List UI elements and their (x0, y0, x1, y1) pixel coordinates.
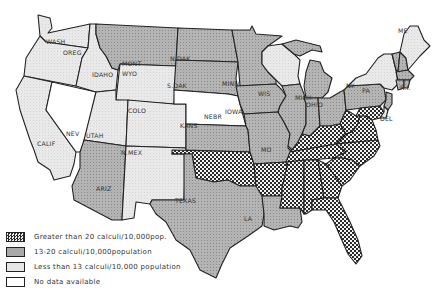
medium-gray-swatch-icon (6, 247, 25, 257)
label-ariz: ARIZ (96, 185, 111, 192)
label-mont: MONT (122, 60, 141, 67)
label-oreg: OREG (63, 49, 82, 56)
label-la: LA (244, 215, 253, 222)
checkered-swatch-icon (6, 232, 25, 242)
label-idaho: IDAHO (92, 71, 113, 78)
label-ri: R.I. (400, 84, 411, 91)
legend-row-13-to-20: 13-20 calculi/10,000population (6, 244, 246, 259)
label-wyo: WYO (122, 70, 137, 77)
label-ndak: N.DAK (170, 55, 191, 62)
legend-row-less-than-13: Less than 13 calculi/10,000 population (6, 259, 246, 274)
label-mich: MICH (295, 94, 312, 101)
label-nev: NEV (66, 130, 80, 137)
state-ny (348, 54, 398, 90)
legend-label: No data available (34, 278, 100, 286)
label-minn: MINN (222, 80, 239, 87)
label-mo: MO (261, 146, 272, 153)
label-sdak: S.DAK (167, 82, 188, 89)
label-nmex: N.MEX (121, 149, 143, 156)
label-ohio: OHIO (306, 101, 323, 108)
label-del: DEL (380, 115, 393, 122)
label-wis: WIS (258, 90, 270, 97)
label-colo: COLO (128, 107, 146, 114)
label-ny: NY (346, 82, 355, 89)
label-nebr: NEBR (204, 113, 222, 120)
light-gray-swatch-icon (6, 262, 25, 272)
white-swatch-icon (6, 277, 25, 287)
map-legend: Greater than 20 calculi/10,000pop. 13-20… (6, 229, 246, 289)
legend-label: Greater than 20 calculi/10,000pop. (34, 233, 167, 241)
state-mass (396, 70, 414, 80)
state-ariz (72, 140, 126, 220)
label-pa: PA (362, 87, 371, 94)
legend-row-greater-than-20: Greater than 20 calculi/10,000pop. (6, 229, 246, 244)
label-wash: WASH (46, 38, 66, 45)
label-utah: UTAH (86, 132, 104, 139)
label-me: ME (398, 27, 408, 34)
state-mich (304, 60, 332, 98)
legend-row-no-data: No data available (6, 274, 246, 289)
label-iowa: IOWA (225, 108, 243, 115)
label-kans: KANS (180, 122, 198, 129)
legend-label: Less than 13 calculi/10,000 population (34, 263, 181, 271)
label-calif: CALIF (37, 140, 56, 147)
label-texas: TEXAS (174, 197, 196, 204)
legend-label: 13-20 calculi/10,000population (34, 248, 152, 256)
state-fla (312, 198, 362, 264)
